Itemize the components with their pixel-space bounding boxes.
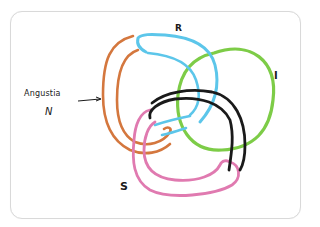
label-i: I (274, 70, 278, 81)
label-n: N (45, 106, 52, 117)
label-angustia: Angustia (24, 89, 61, 98)
blue-loop-R (138, 34, 217, 135)
arrow-to-orange-loop (78, 97, 101, 101)
label-r: R (175, 23, 182, 33)
label-s: S (120, 180, 128, 193)
